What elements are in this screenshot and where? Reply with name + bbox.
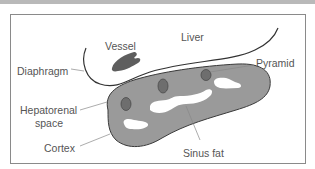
label-hepatorenal: Hepatorenal	[20, 104, 77, 116]
kidney-cortex	[107, 64, 270, 147]
pyramid-2	[158, 79, 168, 93]
label-diaphragm: Diaphragm	[17, 65, 69, 77]
label-liver: Liver	[181, 31, 204, 43]
pyramid-1	[121, 98, 131, 111]
label-pyramid: Pyramid	[256, 57, 295, 69]
kidney-ultrasound-diagram: Vessel Liver Diaphragm Pyramid Hepatoren…	[0, 0, 315, 169]
label-cortex: Cortex	[44, 142, 76, 154]
leader-diaphragm	[71, 69, 84, 71]
label-sinus-fat: Sinus fat	[183, 147, 224, 159]
label-space: space	[35, 117, 63, 129]
pyramid-3	[201, 70, 211, 81]
leader-hepatorenal	[80, 102, 107, 110]
label-vessel: Vessel	[105, 40, 136, 52]
vessel-shape	[112, 52, 140, 71]
leader-cortex	[80, 134, 110, 146]
